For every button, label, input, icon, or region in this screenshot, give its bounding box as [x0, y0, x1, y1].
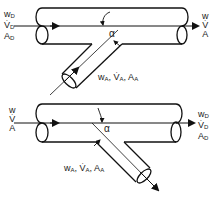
- bottom-branch-flow-arrow: [140, 172, 158, 190]
- bottom-angle-arc: [98, 108, 102, 122]
- bottom-angle-label: α: [104, 124, 110, 133]
- bottom-junction: [14, 104, 194, 190]
- bottom-branch-pipe-edge-right: [124, 142, 150, 168]
- top-branch-centerline: [50, 30, 118, 95]
- bottom-main-pipe-right-end: [171, 122, 181, 142]
- bottom-inlet-labels: w ·V A: [9, 106, 16, 133]
- bottom-outlet-labels: wD ·VD AD: [198, 110, 209, 143]
- top-branch-labels: wA, ·VA, AA: [98, 73, 138, 84]
- top-angle-label: α: [109, 29, 115, 38]
- top-angle-arc: [103, 12, 110, 25]
- bottom-branch-labels: wA, ·VA, AA: [64, 164, 104, 175]
- top-main-pipe-right-end: [177, 26, 187, 44]
- top-outlet-labels: w ·V A: [202, 12, 209, 39]
- top-branch-pipe-end: [60, 72, 78, 90]
- top-inlet-labels: wD ·VD AD: [4, 10, 15, 43]
